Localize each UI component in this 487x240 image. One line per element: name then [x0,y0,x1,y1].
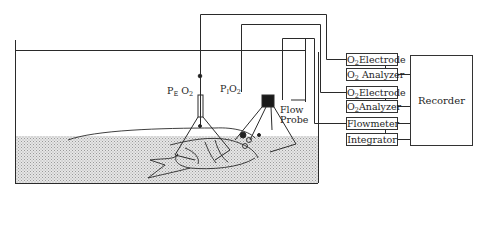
label-pe-o2: PE O2 [167,86,193,99]
o2-analyzer-2-box: O2Analyzer [346,100,398,113]
flowmeter-box: Flowmeter [346,117,398,130]
water-region [16,136,318,183]
label-pi-o2: PIO2 [220,84,241,97]
recorder-box: Recorder [410,55,473,146]
label-flow-probe: FlowProbe [280,105,308,125]
o2-electrode-1-box: O2Electrode [346,53,398,66]
integrator-box: Integrator [346,133,398,146]
recorder-label: Recorder [418,95,465,106]
o2-electrode-2-box: O2Electrode [346,86,398,99]
o2-analyzer-1-box: O2 Analyzer [346,68,398,81]
